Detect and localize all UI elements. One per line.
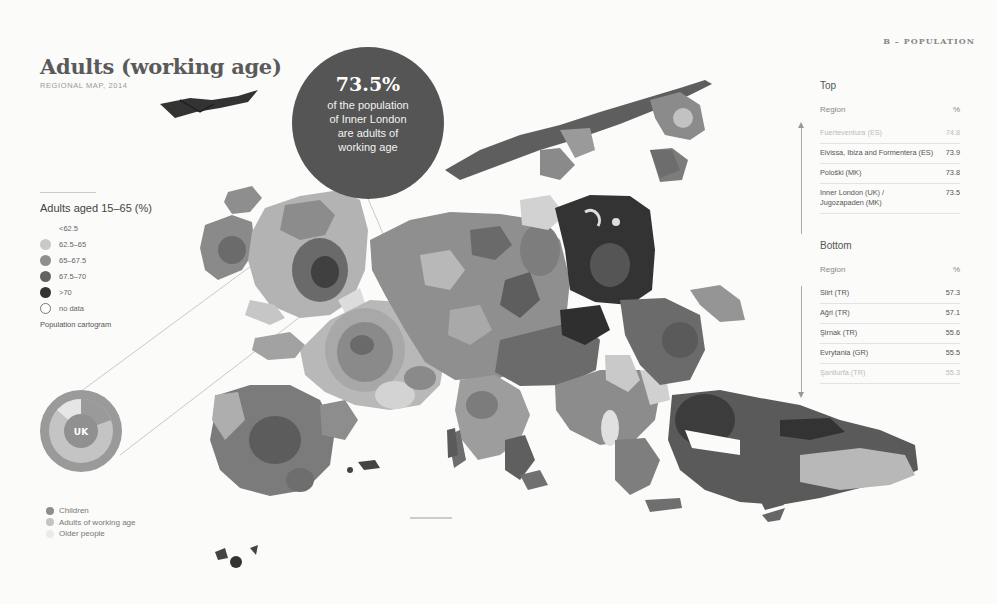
table-row: Ağri (TR) 57.1 [820, 304, 960, 324]
donut-graphic: UK [40, 390, 122, 472]
callout-line: of Inner London [292, 112, 444, 126]
legend-label: 67.5–70 [59, 272, 86, 281]
bottom-table: Bottom Region % Siirt (TR) 57.3 Ağri (TR… [820, 240, 960, 384]
region-cell: Pološki (MK) [820, 168, 861, 178]
region-cell: Evrytania (GR) [820, 348, 868, 358]
value-cell: 57.3 [946, 288, 960, 298]
legend-note: Population cartogram [40, 320, 190, 329]
table-row: Evrytania (GR) 55.5 [820, 344, 960, 364]
circle-swatch-icon [46, 507, 54, 515]
table-row: Siirt (TR) 57.3 [820, 284, 960, 304]
value-cell: 74.8 [946, 128, 960, 138]
region-cell: Siirt (TR) [820, 288, 849, 298]
region-cell: Ağri (TR) [820, 308, 850, 318]
donut-legend-label: Older people [59, 529, 105, 538]
donut-legend-item: Children [46, 505, 136, 517]
section-label: B – POPULATION [883, 36, 975, 46]
callout-text: of the population of Inner London are ad… [292, 98, 444, 154]
donut-legend-label: Adults of working age [59, 518, 136, 527]
map-legend: Adults aged 15–65 (%) <62.5 62.5–65 65–6… [40, 192, 190, 329]
column-header-region: Region [820, 265, 845, 274]
ranking-tables: Top Region % Fuerteventura (ES) 74.8 Eiv… [820, 80, 960, 384]
value-cell: 55.6 [946, 328, 960, 338]
callout-value: 73.5% [292, 73, 444, 95]
legend-label: 65–67.5 [59, 256, 86, 265]
legend-item: no data [40, 300, 190, 316]
legend-item: <62.5 [40, 220, 190, 236]
region-cell: Inner London (UK) / Jugozapaden (MK) [820, 188, 920, 208]
legend-label: >70 [59, 288, 72, 297]
table-row: Eivissa, Ibiza and Formentera (ES) 73.9 [820, 144, 960, 164]
region-cell: Fuerteventura (ES) [820, 128, 882, 138]
donut-legend-label: Children [59, 506, 89, 515]
arrow-line [801, 128, 802, 234]
value-cell: 55.5 [946, 348, 960, 358]
circle-swatch-icon [40, 239, 51, 250]
table-heading: Bottom [820, 240, 960, 251]
table-row: Şirnak (TR) 55.6 [820, 324, 960, 344]
value-cell: 73.9 [946, 148, 960, 158]
legend-label: no data [59, 304, 84, 313]
circle-swatch-icon [40, 287, 51, 298]
divider [40, 192, 96, 193]
highlight-callout: 73.5% of the population of Inner London … [292, 47, 444, 199]
region-cell: Şanliurfa (TR) [820, 368, 865, 378]
top-table: Top Region % Fuerteventura (ES) 74.8 Eiv… [820, 80, 960, 214]
arrow-line [801, 286, 802, 396]
callout-line: are adults of [292, 126, 444, 140]
table-heading: Top [820, 80, 960, 91]
legend-item: 65–67.5 [40, 252, 190, 268]
table-row: Şanliurfa (TR) 55.3 [820, 364, 960, 384]
title-block: Adults (working age) REGIONAL MAP, 2014 [40, 54, 282, 90]
donut-legend-item: Adults of working age [46, 517, 136, 529]
region-cell: Eivissa, Ibiza and Formentera (ES) [820, 148, 933, 158]
arrow-down-icon [798, 392, 804, 398]
column-header-percent: % [953, 265, 960, 274]
table-row: Pološki (MK) 73.8 [820, 164, 960, 184]
no-swatch-icon [40, 223, 51, 234]
value-cell: 57.1 [946, 308, 960, 318]
table-body: Siirt (TR) 57.3 Ağri (TR) 57.1 Şirnak (T… [820, 284, 960, 384]
table-row: Fuerteventura (ES) 74.8 [820, 124, 960, 144]
empty-circle-icon [40, 303, 51, 314]
donut-center-label: UK [74, 427, 89, 437]
legend-title: Adults aged 15–65 (%) [40, 202, 190, 214]
region-cell: Şirnak (TR) [820, 328, 857, 338]
page-title: Adults (working age) [40, 54, 282, 79]
value-cell: 73.5 [946, 188, 960, 198]
table-body: Fuerteventura (ES) 74.8 Eivissa, Ibiza a… [820, 124, 960, 214]
legend-label: 62.5–65 [59, 240, 86, 249]
value-cell: 55.3 [946, 368, 960, 378]
donut-legend-item: Older people [46, 528, 136, 540]
callout-line: of the population [292, 98, 444, 112]
legend-item: 62.5–65 [40, 236, 190, 252]
column-header-region: Region [820, 105, 845, 114]
donut-legend: Children Adults of working age Older peo… [46, 505, 136, 540]
legend-item: >70 [40, 284, 190, 300]
circle-swatch-icon [46, 518, 54, 526]
table-header: Region % [820, 265, 960, 274]
table-header: Region % [820, 105, 960, 114]
legend-label: <62.5 [59, 224, 78, 233]
uk-donut-chart: UK [40, 390, 122, 472]
legend-item: 67.5–70 [40, 268, 190, 284]
page-subtitle: REGIONAL MAP, 2014 [40, 81, 282, 90]
table-row: Inner London (UK) / Jugozapaden (MK) 73.… [820, 184, 960, 214]
circle-swatch-icon [40, 271, 51, 282]
circle-swatch-icon [46, 530, 54, 538]
value-cell: 73.8 [946, 168, 960, 178]
callout-line: working age [292, 140, 444, 154]
circle-swatch-icon [40, 255, 51, 266]
column-header-percent: % [953, 105, 960, 114]
